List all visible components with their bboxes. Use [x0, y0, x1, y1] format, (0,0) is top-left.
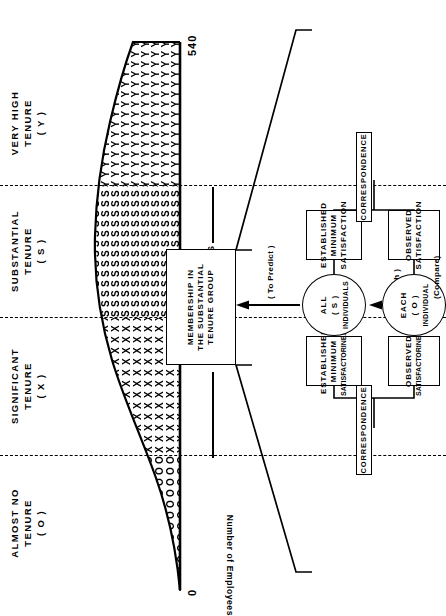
all-s-line3: INDIVIDUALS — [340, 281, 351, 329]
band-heading-s: SUBSTANTIAL TENURE ( S ) — [8, 187, 47, 315]
band-heading-o: ALMOST NO TENURE ( O ) — [8, 458, 47, 588]
est-min-satisfactoriness-line2: MINIMUM — [329, 340, 339, 382]
compare-label: (Compare) — [432, 255, 441, 299]
est-min-satisfactoriness-line1: ESTABLISHED — [319, 328, 329, 394]
band-separator-s-y — [0, 185, 446, 186]
all-s-line1: ALL — [318, 296, 329, 315]
each-o-line3: INDIVIDUAL — [420, 283, 431, 326]
band-x-line2: TENURE — [21, 321, 34, 451]
correspondence-left-box[interactable]: CORRESPONDENCE — [356, 385, 372, 475]
membership-line2: THE SUBSTANTIAL — [196, 263, 206, 351]
observed-satisfactoriness-box[interactable]: OBSERVED SATISFACTORINESS — [388, 336, 440, 386]
axis-rule-left — [212, 372, 214, 458]
est-min-satisfactoriness-line3: SATISFACTORINESS — [339, 326, 349, 396]
membership-prediction-box[interactable]: MEMBERSHIP IN THE SUBSTANTIAL TENURE GRO… — [166, 249, 236, 365]
band-o-line1: ALMOST NO — [8, 458, 21, 588]
established-minimum-satisfaction-box[interactable]: ESTABLISHED MINIMUM SATISFACTION — [306, 210, 362, 260]
est-min-satisfaction-line2: MINIMUM — [329, 214, 339, 256]
observed-satisfaction-line2: SATISFACTION — [414, 201, 424, 270]
correspondence-left-label: CORRESPONDENCE — [359, 386, 369, 473]
est-min-satisfaction-line3: SATISFACTION — [339, 201, 349, 270]
all-s-individuals-node[interactable]: ALL ( S ) INDIVIDUALS — [302, 274, 366, 336]
band-separator-o-x — [0, 455, 446, 456]
band-s-line2: TENURE — [21, 187, 34, 315]
established-minimum-satisfactoriness-box[interactable]: ESTABLISHED MINIMUM SATISFACTORINESS — [306, 336, 362, 386]
band-s-line3: ( S ) — [34, 187, 47, 315]
observed-satisfaction-line1: OBSERVED — [404, 209, 414, 261]
observed-satisfactoriness-line2: SATISFACTORINESS — [414, 326, 424, 396]
axis-tick-zero: 0 — [186, 589, 198, 596]
membership-line1: MEMBERSHIP IN — [186, 269, 196, 345]
band-y-line3: ( Y ) — [34, 63, 47, 183]
correspondence-right-box[interactable]: CORRESPONDENCE — [356, 132, 372, 222]
band-x-line3: ( X ) — [34, 321, 47, 451]
axis-rule-right — [212, 187, 214, 243]
all-s-line2: ( S ) — [329, 295, 340, 315]
observed-satisfaction-box[interactable]: OBSERVED SATISFACTION — [388, 210, 440, 260]
band-o-line2: TENURE — [21, 458, 34, 588]
each-o-line1: EACH — [398, 292, 409, 319]
correspondence-right-label: CORRESPONDENCE — [359, 133, 369, 220]
band-heading-y: VERY HIGH TENURE ( Y ) — [8, 63, 47, 183]
est-min-satisfaction-line1: ESTABLISHED — [319, 202, 329, 268]
band-heading-x: SIGNIFICANT TENURE ( X ) — [8, 321, 47, 451]
axis-title-employees: Number of Employees — [225, 515, 235, 616]
band-y-line1: VERY HIGH — [8, 63, 21, 183]
band-x-line1: SIGNIFICANT — [8, 321, 21, 451]
band-o-line3: ( O ) — [34, 458, 47, 588]
to-predict-label: ( To Predict ) — [266, 245, 275, 299]
membership-line3: TENURE GROUP — [206, 269, 216, 344]
band-s-line1: SUBSTANTIAL — [8, 187, 21, 315]
band-y-line2: TENURE — [21, 63, 34, 183]
axis-tick-max: 540 — [186, 35, 198, 56]
each-o-line2: ( O ) — [409, 295, 420, 316]
observed-satisfactoriness-line1: OBSERVED — [404, 335, 414, 387]
